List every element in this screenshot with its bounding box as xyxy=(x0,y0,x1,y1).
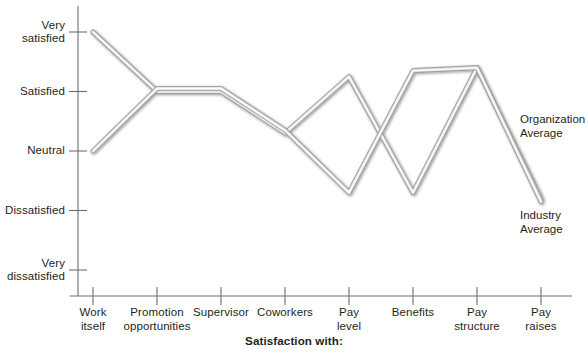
x-axis-tick-label-line: opportunities xyxy=(109,320,205,334)
series-stroke-core xyxy=(93,68,541,202)
y-axis-tick-label-line: Very xyxy=(0,19,65,32)
series-label-industry-average: Industry Average xyxy=(520,209,588,236)
series-stroke-highlight xyxy=(93,32,541,199)
y-axis-tick-label: Verydissatisfied xyxy=(0,257,65,283)
series-group xyxy=(93,32,541,202)
x-axis-title: Satisfaction with: xyxy=(0,334,588,347)
y-axis-tick-label: Neutral xyxy=(0,144,65,157)
series-line-organization-average xyxy=(93,32,541,199)
x-axis-tick-label: Payraises xyxy=(493,306,588,333)
y-axis-tick-label-line: dissatisfied xyxy=(0,270,65,283)
y-axis-tick-label: Verysatisfied xyxy=(0,19,65,45)
series-line-industry-average xyxy=(93,68,541,202)
series-stroke-outer xyxy=(93,32,541,199)
series-stroke-core xyxy=(93,32,541,199)
y-axis-tick-label-line: Neutral xyxy=(0,144,65,157)
axis-group xyxy=(69,6,572,305)
y-axis-tick-label-line: Dissatisfied xyxy=(0,204,65,217)
x-axis-tick-label-line: Pay xyxy=(493,306,588,320)
y-axis-tick-label: Dissatisfied xyxy=(0,204,65,217)
y-axis-tick-label-line: Satisfied xyxy=(0,85,65,98)
satisfaction-line-chart: VerysatisfiedSatisfiedNeutralDissatisfie… xyxy=(0,0,588,353)
chart-plot-area xyxy=(0,0,588,353)
y-axis-tick-label-line: satisfied xyxy=(0,32,65,45)
y-axis-tick-label: Satisfied xyxy=(0,85,65,98)
series-label-organization-average: Organization Average xyxy=(520,113,588,140)
x-axis-tick-label-line: raises xyxy=(493,320,588,334)
x-axis-tick-label-line: level xyxy=(301,320,397,334)
y-axis-tick-label-line: Very xyxy=(0,257,65,270)
